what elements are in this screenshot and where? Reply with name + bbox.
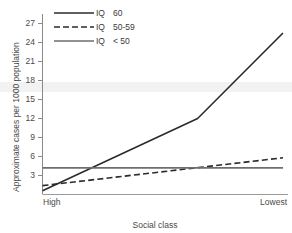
legend-prefix-iq-50-59: IQ [96,22,113,32]
legend-item-iq-under-50: IQ< 50 [52,34,182,48]
legend-value-iq-60: 60 [113,8,122,18]
series-line-iq-60 [43,33,284,191]
series-line-iq-50-59 [43,158,284,186]
legend-value-iq-50-59: 50-59 [113,22,135,32]
legend-prefix-iq-under-50: IQ [96,36,113,46]
x-tick-label-high: High [43,198,60,207]
legend-label-iq-under-50: IQ< 50 [96,36,130,46]
y-tick-label: 27 [13,19,35,28]
legend-item-iq-60: IQ60 [52,6,182,20]
chart-figure: 369121518212427 High Lowest Approximate … [0,0,292,233]
legend-swatch-solid-dark [52,6,94,20]
legend-prefix-iq-60: IQ [96,8,113,18]
x-tick-label-lowest: Lowest [260,198,287,207]
background-band [0,82,292,92]
legend-label-iq-50-59: IQ50-59 [96,22,135,32]
chart-legend: IQ60 IQ50-59 IQ< 50 [52,6,182,48]
legend-item-iq-50-59: IQ50-59 [52,20,182,34]
y-axis-title: Approximate cases per 1000 population [11,42,21,192]
legend-swatch-dashed [52,20,94,34]
series-layer [43,33,284,191]
y-axis-ticks [38,24,43,176]
legend-label-iq-60: IQ60 [96,8,122,18]
legend-swatch-solid-gray [52,34,94,48]
legend-value-iq-under-50: < 50 [113,36,130,46]
x-axis-title: Social class [9,220,292,230]
